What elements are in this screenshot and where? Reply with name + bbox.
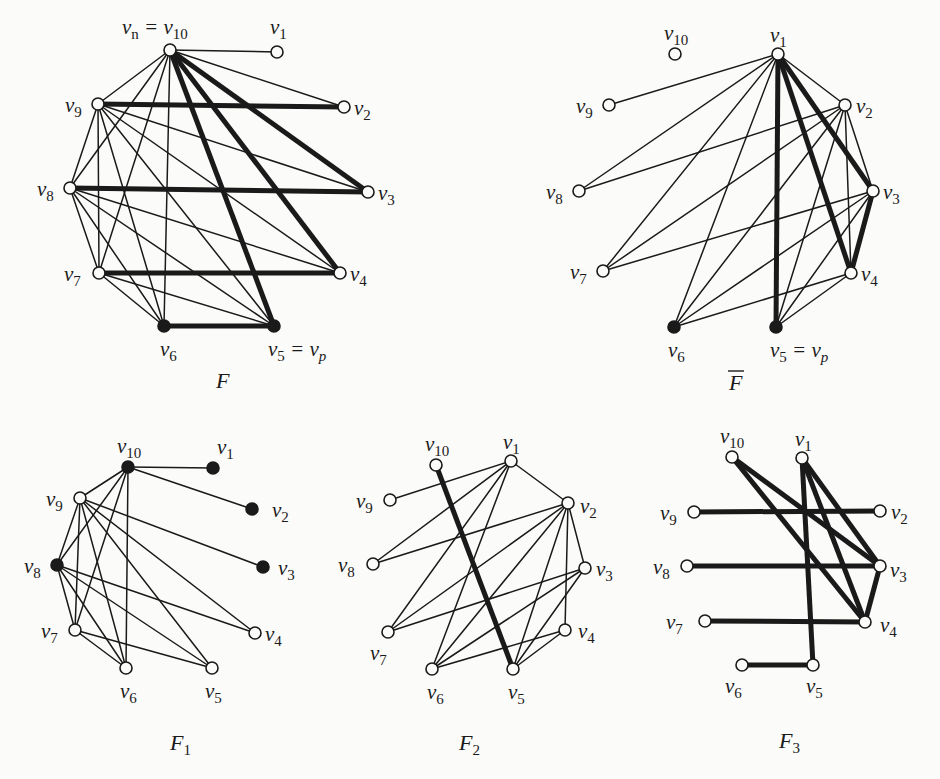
vertex-v1-icon — [207, 462, 219, 474]
vertex-v10-icon — [726, 451, 738, 463]
edge-v1-v7 — [388, 461, 511, 632]
edge-v1-v4 — [778, 54, 851, 273]
vertex-label-v7: v7 — [41, 619, 58, 646]
vertex-label-v10: v10 — [720, 424, 744, 451]
edge-v1-v5 — [776, 54, 778, 327]
vertex-label-v7: v7 — [570, 260, 587, 287]
vertex-v5-icon — [807, 659, 819, 671]
edge-v10-v1 — [170, 50, 277, 52]
vertex-v8-icon — [367, 558, 379, 570]
vertex-label-v7: v7 — [64, 262, 81, 289]
vertex-label-v1: v1 — [217, 435, 234, 462]
vertex-v5-icon — [206, 662, 218, 674]
vertex-label-v3: v3 — [596, 557, 613, 584]
vertex-label-v9: v9 — [660, 501, 677, 528]
vertex-v7-icon — [69, 624, 81, 636]
vertex-v5-icon — [268, 320, 280, 332]
vertex-label-v3: v3 — [278, 556, 295, 583]
vertex-v2-icon — [246, 503, 258, 515]
vertex-v9-icon — [384, 494, 396, 506]
vertex-v4-icon — [845, 267, 857, 279]
edge-v8-v4 — [57, 565, 255, 633]
edge-v8-v7 — [70, 188, 99, 273]
vertex-v2-icon — [839, 99, 851, 111]
vertex-label-v9: v9 — [46, 487, 63, 514]
edge-v8-v6 — [70, 188, 164, 326]
edge-v10-v5 — [436, 465, 513, 669]
edge-v9-v7 — [75, 498, 80, 630]
edge-v10-v2 — [170, 50, 344, 107]
vertex-v6-icon — [668, 321, 680, 333]
edge-v7-v6 — [99, 273, 164, 326]
edge-v3-v7 — [603, 191, 873, 271]
edge-v2-v7 — [603, 105, 845, 271]
vertex-label-v8: v8 — [546, 180, 563, 207]
graph-f: vn = v10v1v9v2v8v3v7v4v6v5 = vpF — [37, 15, 395, 393]
vertex-v4-icon — [334, 267, 346, 279]
vertex-v6-icon — [158, 320, 170, 332]
edge-v1-v9 — [390, 461, 511, 500]
edge-v10-v4 — [170, 50, 340, 273]
vertex-v3-icon — [579, 562, 591, 574]
vertex-label-v4: v4 — [861, 262, 878, 289]
edge-v2-v6 — [674, 105, 845, 327]
edge-v7-v5 — [75, 630, 212, 668]
edge-v1-v9 — [609, 54, 778, 105]
edge-v10-v8 — [57, 467, 128, 565]
edge-v10-v9 — [80, 467, 128, 498]
edge-v8-v4 — [70, 188, 340, 273]
vertex-label-v7: v7 — [370, 641, 387, 668]
vertex-label-v2: v2 — [272, 498, 289, 525]
edge-v10-v2 — [128, 467, 252, 509]
vertex-label-v3: v3 — [378, 181, 395, 208]
vertex-v10-icon — [164, 44, 176, 56]
vertex-v5-icon — [770, 321, 782, 333]
vertex-v3-icon — [867, 185, 879, 197]
vertex-v7-icon — [597, 265, 609, 277]
graph-caption-fbar: F — [728, 370, 743, 395]
graph-caption-f1: F1 — [169, 730, 191, 758]
edge-v8-v5 — [70, 188, 274, 326]
edge-v9-v5 — [98, 104, 274, 326]
vertex-label-v5: v5 — [508, 680, 525, 707]
vertex-label-v4: v4 — [350, 262, 367, 289]
vertex-label-v1: v1 — [770, 23, 787, 50]
graph-f1: v10v1v9v2v8v3v7v4v6v5F1 — [24, 434, 295, 758]
edge-v1-v2 — [511, 461, 568, 503]
vertex-v3-icon — [257, 561, 269, 573]
graph-canvas: vn = v10v1v9v2v8v3v7v4v6v5 = vpFv10v1v9v… — [0, 0, 940, 779]
vertex-v2-icon — [874, 505, 886, 517]
edge-v9-v2 — [694, 511, 880, 512]
vertex-label-v9: v9 — [65, 93, 82, 120]
vertex-label-v2: v2 — [891, 500, 908, 527]
edge-v10-v6 — [126, 467, 128, 668]
vertex-label-v10: v10 — [425, 432, 449, 459]
vertex-v1-icon — [271, 46, 283, 58]
edge-v9-v4 — [80, 498, 255, 633]
graph-figure: vn = v10v1v9v2v8v3v7v4v6v5 = vpFv10v1v9v… — [0, 0, 940, 779]
vertex-label-v5: v5 — [205, 679, 222, 706]
vertex-label-v8: v8 — [653, 555, 670, 582]
vertex-v8-icon — [681, 560, 693, 572]
vertex-label-v10: vn = v10 — [122, 15, 188, 42]
vertex-label-v5: v5 = vp — [770, 338, 829, 365]
edge-v8-v3 — [70, 188, 368, 192]
vertex-v4-icon — [559, 624, 571, 636]
vertex-v9-icon — [74, 492, 86, 504]
vertex-v9-icon — [603, 99, 615, 111]
vertex-label-v6: v6 — [120, 679, 137, 706]
vertex-label-v1: v1 — [503, 430, 520, 457]
vertex-v10-icon — [669, 48, 681, 60]
vertex-label-v8: v8 — [24, 554, 41, 581]
edge-v1-v7 — [603, 54, 778, 271]
graph-f2: v10v1v9v2v8v3v7v4v6v5F2 — [338, 430, 613, 758]
edge-v2-v8 — [579, 105, 845, 191]
edge-v3-v5 — [513, 568, 585, 669]
edge-v10-v9 — [98, 50, 170, 104]
edge-v3-v5 — [776, 191, 873, 327]
edge-v4-v5 — [776, 273, 851, 327]
edge-v4-v5 — [513, 630, 565, 669]
vertex-v10-icon — [430, 459, 442, 471]
vertex-v2-icon — [338, 101, 350, 113]
vertex-label-v5: v5 = vp — [268, 337, 327, 364]
